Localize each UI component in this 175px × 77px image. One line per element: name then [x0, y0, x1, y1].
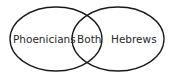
intersection-label: Both — [77, 33, 101, 45]
set-label-hebrews: Hebrews — [111, 33, 157, 45]
set-label-phoenicians: Phoenicians — [13, 33, 76, 45]
